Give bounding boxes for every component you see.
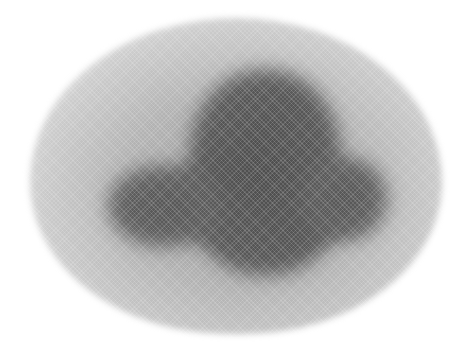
dark-core-left-lobe (108, 165, 218, 247)
dark-core-right-lobe (305, 158, 387, 240)
blob-image (0, 0, 460, 347)
